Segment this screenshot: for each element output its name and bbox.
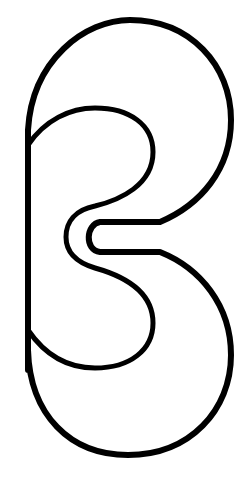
outer-contour <box>28 20 231 455</box>
b-shape-outline-icon <box>0 0 243 485</box>
figure-canvas: Black outline drawing of a stylized B-li… <box>0 0 243 485</box>
